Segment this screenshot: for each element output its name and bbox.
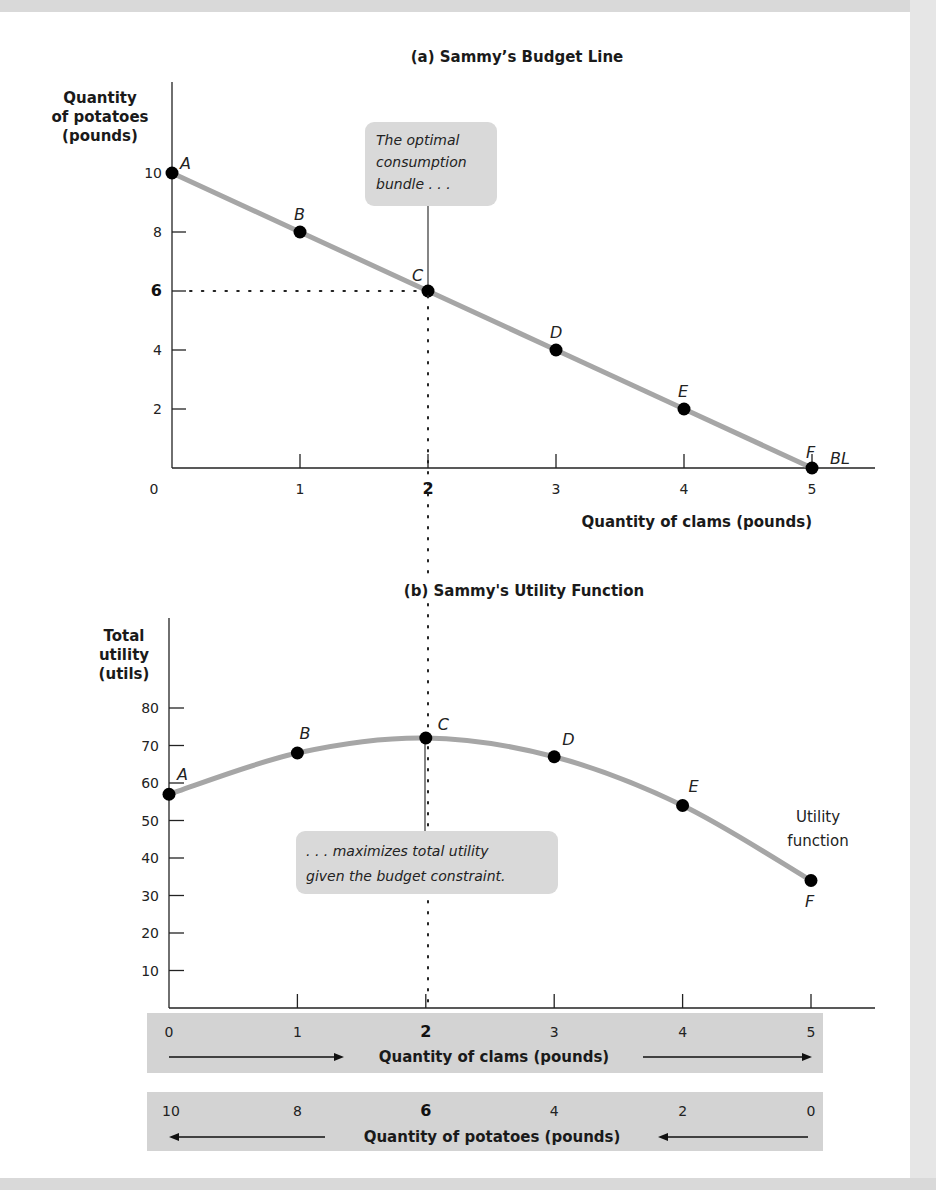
point-label: B	[299, 724, 310, 743]
panel-b-y-tick: 30	[141, 888, 159, 904]
point-label: C	[412, 266, 424, 285]
panel-a-y-tick: 4	[153, 342, 162, 358]
potatoes-strip-tick: 0	[807, 1103, 816, 1119]
point-label: A	[179, 154, 191, 173]
panel-a-y-label-1: Quantity	[63, 89, 137, 107]
panel-b-utility-function: (b) Sammy's Utility Function Total utili…	[99, 575, 875, 1151]
panel-a-budget-line: (a) Sammy’s Budget Line Quantity of pota…	[52, 48, 875, 531]
clams-axis-strip: 012345 Quantity of clams (pounds)	[147, 1013, 823, 1073]
panel-b-y-tick: 80	[141, 700, 159, 716]
point-label: C	[438, 715, 450, 734]
point-label: A	[176, 765, 188, 784]
svg-text:The optimal: The optimal	[376, 132, 460, 148]
svg-text:given the budget constraint.: given the budget constraint.	[306, 868, 505, 884]
panel-b-y-tick: 60	[141, 775, 159, 791]
point-label: F	[806, 443, 816, 462]
panel-a-y-label-3: (pounds)	[62, 127, 138, 145]
panel-a-plot: ABCDEFBL	[166, 154, 850, 475]
point-D	[550, 344, 563, 357]
panel-b-y-tick: 20	[141, 925, 159, 941]
budget-line	[172, 173, 812, 468]
clams-strip-tick: 5	[807, 1024, 816, 1040]
potatoes-strip-tick: 6	[420, 1101, 431, 1120]
figure: (a) Sammy’s Budget Line Quantity of pota…	[0, 0, 936, 1190]
point-E	[676, 799, 689, 812]
point-F	[805, 874, 818, 887]
point-D	[548, 750, 561, 763]
utility-function-label-1: Utility	[796, 808, 840, 826]
potatoes-strip-tick: 4	[550, 1103, 559, 1119]
point-C	[419, 732, 432, 745]
panel-a-y-tick: 6	[151, 281, 162, 300]
clams-strip-tick: 1	[293, 1024, 302, 1040]
panel-a-x-label: Quantity of clams (pounds)	[582, 513, 812, 531]
panel-b-axes: 1020304050607080	[141, 618, 875, 1008]
point-label: B	[294, 205, 305, 224]
panel-a-y-tick: 2	[153, 401, 162, 417]
panel-a-y-tick: 8	[153, 224, 162, 240]
budget-line-label: BL	[830, 449, 850, 468]
panel-a-y-tick: 10	[144, 165, 162, 181]
potatoes-strip-tick: 8	[293, 1103, 302, 1119]
clams-strip-label: Quantity of clams (pounds)	[379, 1048, 609, 1066]
panel-a-x-tick: 1	[296, 481, 305, 497]
panel-b-y-label-3: (utils)	[99, 665, 150, 683]
point-F	[806, 462, 819, 475]
point-label: E	[678, 382, 689, 401]
panel-b-callout: . . . maximizes total utility given the …	[296, 741, 558, 894]
point-A	[166, 167, 179, 180]
panel-b-y-tick: 10	[141, 963, 159, 979]
panel-b-y-tick: 70	[141, 738, 159, 754]
potatoes-strip-tick: 10	[162, 1103, 180, 1119]
svg-text:. . . maximizes total utility: . . . maximizes total utility	[306, 843, 489, 859]
point-B	[294, 226, 307, 239]
panel-b-y-label-1: Total	[104, 627, 145, 645]
potatoes-axis-strip: 1086420 Quantity of potatoes (pounds)	[147, 1092, 823, 1151]
point-B	[291, 747, 304, 760]
panel-a-x-tick: 4	[680, 481, 689, 497]
clams-strip-tick: 4	[678, 1024, 687, 1040]
panel-b-y-label-2: utility	[99, 646, 149, 664]
point-label: E	[689, 777, 700, 796]
point-label: D	[562, 730, 574, 749]
panel-a-x-tick: 5	[808, 481, 817, 497]
panel-a-axes: 012345246810	[144, 82, 875, 498]
panel-b-y-tick: 50	[141, 813, 159, 829]
point-label: D	[550, 323, 562, 342]
potatoes-strip-label: Quantity of potatoes (pounds)	[364, 1128, 621, 1146]
panel-a-x-tick: 3	[552, 481, 561, 497]
panel-a-callout: The optimal consumption bundle . . .	[365, 122, 497, 291]
clams-strip-tick: 2	[420, 1022, 431, 1041]
panel-a-title: (a) Sammy’s Budget Line	[411, 48, 624, 66]
clams-strip-tick: 3	[550, 1024, 559, 1040]
point-E	[678, 403, 691, 416]
panel-b-y-tick: 40	[141, 850, 159, 866]
utility-function-label-2: function	[787, 832, 848, 850]
potatoes-strip-tick: 2	[678, 1103, 687, 1119]
point-A	[163, 788, 176, 801]
svg-text:consumption: consumption	[376, 154, 467, 170]
clams-strip-tick: 0	[165, 1024, 174, 1040]
panel-b-title: (b) Sammy's Utility Function	[404, 582, 644, 600]
svg-text:bundle . . .: bundle . . .	[376, 176, 451, 192]
panel-a-x-tick: 0	[150, 481, 159, 497]
panel-a-y-label-2: of potatoes	[52, 108, 149, 126]
point-label: F	[805, 892, 815, 911]
